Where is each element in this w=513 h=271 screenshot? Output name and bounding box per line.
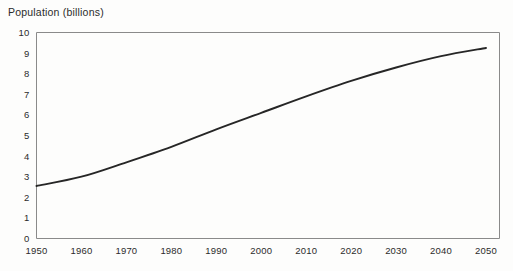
y-axis-tick-labels: 012345678910 — [19, 27, 30, 244]
y-tick-0: 0 — [24, 233, 29, 244]
population-data-line — [37, 48, 487, 186]
y-tick-2: 2 — [24, 192, 29, 203]
x-tick-1990: 1990 — [205, 245, 227, 256]
x-tick-2000: 2000 — [250, 245, 272, 256]
x-tick-1970: 1970 — [115, 245, 137, 256]
axis-frame — [37, 33, 500, 239]
y-tick-3: 3 — [24, 171, 29, 182]
x-tick-1950: 1950 — [26, 245, 48, 256]
y-tick-6: 6 — [24, 109, 29, 120]
y-tick-4: 4 — [24, 151, 29, 162]
x-tick-2030: 2030 — [385, 245, 407, 256]
y-tick-7: 7 — [24, 89, 29, 100]
population-line-chart: Population (billions) 012345678910 19501… — [0, 0, 513, 271]
y-tick-10: 10 — [19, 27, 30, 38]
x-tick-2020: 2020 — [340, 245, 362, 256]
x-tick-2050: 2050 — [475, 245, 497, 256]
y-tick-1: 1 — [24, 212, 29, 223]
plot-area: 012345678910 195019601970198019902000201… — [0, 0, 513, 271]
x-tick-1980: 1980 — [160, 245, 182, 256]
x-tick-2010: 2010 — [295, 245, 317, 256]
x-tick-1960: 1960 — [70, 245, 92, 256]
x-axis-tick-labels: 1950196019701980199020002010202020302040… — [26, 245, 497, 256]
x-tick-2040: 2040 — [430, 245, 452, 256]
y-tick-5: 5 — [24, 130, 29, 141]
y-tick-8: 8 — [24, 68, 29, 79]
y-tick-9: 9 — [24, 48, 29, 59]
